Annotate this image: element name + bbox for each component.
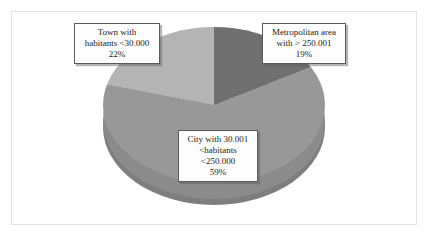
pie-label-metropolitan-area: Metropolitan area with > 250.001 19% xyxy=(262,23,346,64)
pie-label-city-line2: <habitants xyxy=(183,145,253,156)
pie-label-city-percent: 59% xyxy=(183,167,253,178)
pie-chart-figure: Town with habitants <30.000 22% Metropol… xyxy=(0,0,429,242)
pie-label-town-percent: 22% xyxy=(79,49,155,60)
pie-label-town-line2: habitants <30.000 xyxy=(79,38,155,49)
pie-label-city: City with 30.001 <habitants <250.000 59% xyxy=(178,130,258,182)
pie-label-town-line1: Town with xyxy=(79,27,155,38)
pie-label-city-line3: <250.000 xyxy=(183,156,253,167)
pie-label-metro-percent: 19% xyxy=(267,49,341,60)
pie-label-metro-line2: with > 250.001 xyxy=(267,38,341,49)
pie-label-metro-line1: Metropolitan area xyxy=(267,27,341,38)
pie-label-town: Town with habitants <30.000 22% xyxy=(74,23,160,64)
pie-label-city-line1: City with 30.001 xyxy=(183,134,253,145)
